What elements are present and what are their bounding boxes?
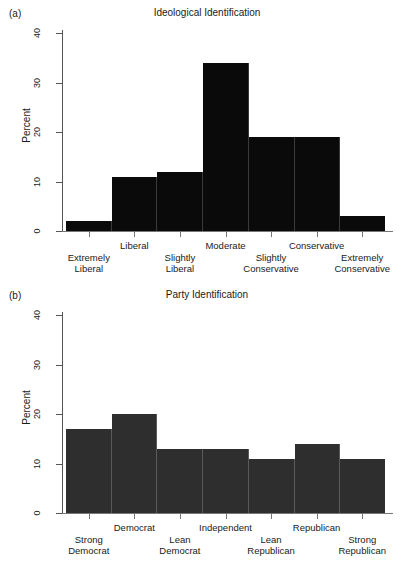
x-axis-category-label: Moderate	[178, 240, 274, 251]
x-axis-category-label: Liberal	[86, 240, 182, 251]
x-axis-tick	[226, 514, 227, 519]
y-axis-tick	[56, 315, 62, 316]
y-axis-tick-label: 0	[32, 498, 42, 528]
bar	[249, 137, 295, 231]
y-axis-label-a: Percent	[21, 96, 32, 156]
y-axis-tick-label: 40	[32, 300, 42, 330]
bar	[66, 429, 112, 513]
y-axis-line-a	[62, 30, 63, 232]
bar	[340, 216, 385, 231]
bar-series-a	[66, 33, 385, 231]
bar	[203, 63, 249, 231]
x-axis-tick	[226, 232, 227, 237]
x-axis-tick	[271, 232, 272, 237]
y-axis-tick	[56, 132, 62, 133]
y-axis-tick-label: 0	[32, 216, 42, 246]
panel-party-identification: (b) Party Identification Percent 0102030…	[0, 282, 414, 564]
y-axis-tick-label: 40	[32, 18, 42, 48]
y-axis-tick	[56, 33, 62, 34]
x-axis-tick	[89, 232, 90, 237]
x-axis-tick	[362, 232, 363, 237]
x-axis-line-b	[62, 513, 393, 514]
x-axis-category-label: LeanDemocrat	[132, 534, 228, 556]
plot-area-a: Percent 010203040ExtremelyLiberalLiberal…	[0, 0, 414, 282]
x-axis-category-label: Conservative	[269, 240, 365, 251]
x-axis-tick	[89, 514, 90, 519]
bar	[340, 459, 385, 513]
x-axis-category-label: Independent	[178, 522, 274, 533]
panel-ideological-identification: (a) Ideological Identification Percent 0…	[0, 0, 414, 282]
bar	[157, 449, 203, 513]
bar	[203, 449, 249, 513]
x-axis-category-label: Republican	[269, 522, 365, 533]
y-axis-tick-label: 10	[32, 167, 42, 197]
x-axis-tick	[317, 514, 318, 519]
bar	[112, 414, 158, 513]
y-axis-line-b	[62, 312, 63, 514]
x-axis-line-a	[62, 231, 393, 232]
y-axis-tick	[56, 513, 62, 514]
bar	[295, 137, 341, 231]
x-axis-tick	[271, 514, 272, 519]
y-axis-tick-label: 20	[32, 399, 42, 429]
y-axis-tick-label: 20	[32, 117, 42, 147]
x-axis-tick	[180, 232, 181, 237]
y-axis-tick-label: 30	[32, 68, 42, 98]
y-axis-tick	[56, 182, 62, 183]
bar	[157, 172, 203, 231]
bar	[112, 177, 158, 231]
y-axis-tick-label: 30	[32, 350, 42, 380]
x-axis-category-label: StrongRepublican	[314, 534, 410, 556]
x-axis-category-label: LeanRepublican	[223, 534, 319, 556]
bar	[295, 444, 341, 513]
y-axis-tick	[56, 414, 62, 415]
bar	[66, 221, 112, 231]
bar	[249, 459, 295, 513]
x-axis-category-label: Democrat	[86, 522, 182, 533]
y-axis-tick	[56, 231, 62, 232]
y-axis-tick	[56, 83, 62, 84]
x-axis-category-label: ExtremelyConservative	[314, 252, 410, 274]
plot-area-b: Percent 010203040StrongDemocratDemocratL…	[0, 282, 414, 564]
y-axis-label-b: Percent	[21, 378, 32, 438]
x-axis-category-label: SlightlyLiberal	[132, 252, 228, 274]
x-axis-tick	[362, 514, 363, 519]
y-axis-tick	[56, 365, 62, 366]
x-axis-category-label: StrongDemocrat	[41, 534, 137, 556]
x-axis-tick	[180, 514, 181, 519]
x-axis-category-label: SlightlyConservative	[223, 252, 319, 274]
x-axis-tick	[134, 232, 135, 237]
bar-series-b	[66, 315, 385, 513]
y-axis-tick-label: 10	[32, 449, 42, 479]
x-axis-tick	[134, 514, 135, 519]
x-axis-tick	[317, 232, 318, 237]
y-axis-tick	[56, 464, 62, 465]
x-axis-category-label: ExtremelyLiberal	[41, 252, 137, 274]
